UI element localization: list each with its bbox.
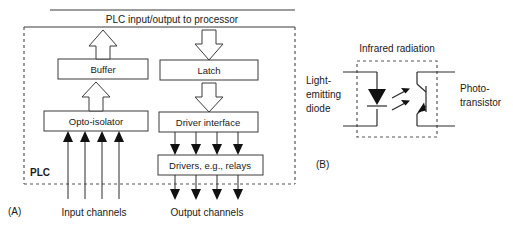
driver-to-drivers-arrow bbox=[233, 132, 243, 155]
input-channel-line bbox=[63, 131, 73, 199]
radiation-arrow bbox=[392, 88, 410, 98]
input-channels-label: Input channels bbox=[61, 207, 126, 218]
input-channel-line bbox=[97, 131, 107, 199]
panel-b-caption: (B) bbox=[316, 159, 329, 170]
driver-to-drivers-arrow bbox=[191, 132, 201, 155]
radiation-arrow-group bbox=[392, 88, 410, 110]
output-channel-line bbox=[170, 175, 180, 200]
bus-to-latch-arrow bbox=[195, 30, 223, 60]
svg-text:transistor: transistor bbox=[460, 97, 502, 108]
phototransistor-emitter-arrowhead bbox=[418, 103, 427, 113]
latch-to-driver-interface-arrow bbox=[195, 83, 223, 112]
output-channels-label: Output channels bbox=[171, 207, 244, 218]
panel-a-caption: (A) bbox=[8, 206, 21, 217]
led-diode-triangle bbox=[368, 89, 386, 105]
output-channel-line bbox=[233, 175, 243, 200]
svg-text:emitting: emitting bbox=[306, 89, 341, 100]
input-channel-group bbox=[63, 131, 124, 199]
phototransistor-collector-slant bbox=[417, 84, 426, 92]
panel-a: PLC input/output to processor PLC Buffer… bbox=[8, 10, 295, 218]
input-channel-line bbox=[114, 131, 124, 199]
opto-isolator-to-buffer-arrow bbox=[82, 82, 110, 111]
opto-isolator-box-label: Opto-isolator bbox=[69, 116, 123, 127]
light-emitting-diode-label: Light- emitting diode bbox=[306, 75, 341, 114]
plc-io-figure: PLC input/output to processor PLC Buffer… bbox=[0, 0, 513, 228]
driver-to-drivers-arrow bbox=[212, 132, 222, 155]
input-channel-line bbox=[80, 131, 90, 199]
driver-interface-box-label: Driver interface bbox=[176, 117, 240, 128]
svg-text:Photo-: Photo- bbox=[460, 83, 489, 94]
panel-b: Infrared radiation bbox=[306, 43, 502, 170]
buffer-to-bus-arrow bbox=[89, 30, 117, 59]
svg-text:Light-: Light- bbox=[306, 75, 331, 86]
driver-to-drivers-arrow-group bbox=[170, 132, 243, 155]
processor-bus-label: PLC input/output to processor bbox=[106, 14, 239, 25]
output-channel-group bbox=[170, 175, 243, 200]
latch-box-label: Latch bbox=[197, 65, 220, 76]
photo-transistor-label: Photo- transistor bbox=[460, 83, 502, 108]
output-channel-line bbox=[212, 175, 222, 200]
plc-enclosure-label: PLC bbox=[30, 167, 50, 178]
drivers-box-label: Drivers, e.g., relays bbox=[169, 160, 251, 171]
driver-to-drivers-arrow bbox=[170, 132, 180, 155]
buffer-box-label: Buffer bbox=[90, 64, 115, 75]
radiation-arrow bbox=[392, 100, 410, 110]
svg-text:diode: diode bbox=[306, 103, 331, 114]
infrared-radiation-label: Infrared radiation bbox=[359, 43, 435, 54]
output-channel-line bbox=[191, 175, 201, 200]
figure-canvas: PLC input/output to processor PLC Buffer… bbox=[0, 0, 513, 228]
